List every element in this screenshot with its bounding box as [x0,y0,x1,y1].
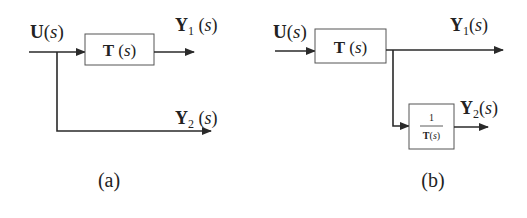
transfer-block-label-b: T (s) [334,38,368,57]
branch-arrow-b [393,50,409,126]
inverse-block-b [409,104,454,149]
output1-label-a: Y1 (s) [175,15,218,38]
panel-b: U(s) T (s) Y1(s) 1 T(s) Y2(s) (b) [273,15,503,192]
input-label-b: U(s) [273,21,307,43]
inverse-block-numerator: 1 [429,112,434,123]
transfer-block-label-a: T (s) [103,41,137,60]
inverse-block-denominator: T(s) [423,130,440,142]
output1-label-b: Y1(s) [450,15,488,38]
caption-b: (b) [421,169,444,192]
block-diagram-figure: U(s) T (s) Y1 (s) Y2 (s) (a) U(s) T (s) … [0,0,527,218]
panel-a: U(s) T (s) Y1 (s) Y2 (s) (a) [29,15,218,192]
input-label-a: U(s) [30,21,64,43]
output2-label-b: Y2(s) [460,98,498,121]
output2-label-a: Y2 (s) [175,108,218,131]
caption-a: (a) [98,169,120,192]
